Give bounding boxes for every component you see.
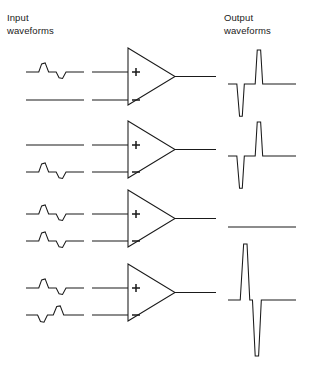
row-1-output-waveform — [228, 50, 296, 116]
row-1-input-plus-waveform — [26, 63, 84, 79]
row-1-plus-sign-icon — [132, 68, 140, 76]
row-4-plus-sign-icon — [132, 284, 140, 292]
row-4-input-plus-waveform — [26, 279, 84, 295]
row-4-amplifier-symbol — [128, 264, 175, 321]
row-3-plus-sign-icon — [132, 210, 140, 218]
row-4-output-waveform — [228, 244, 296, 356]
diagram-canvas — [0, 0, 312, 376]
row-1-amplifier-symbol — [128, 48, 175, 105]
row-3-amplifier-symbol — [128, 190, 175, 247]
row-2-input-minus-waveform — [26, 163, 84, 179]
row-2-plus-sign-icon — [132, 141, 140, 149]
row-2-output-waveform — [228, 122, 296, 188]
row-3-input-plus-waveform — [26, 205, 84, 221]
row-4-input-minus-waveform — [26, 306, 84, 322]
row-2-amplifier-symbol — [128, 121, 175, 178]
row-3-input-minus-waveform — [26, 232, 84, 248]
differential-amplifier-diagram: Input waveforms Output waveforms — [0, 0, 312, 376]
